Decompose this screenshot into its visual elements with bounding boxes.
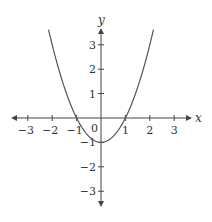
x-tick-label: 2 — [146, 124, 153, 137]
y-tick-label: −1 — [80, 136, 96, 149]
y-axis-label: y — [97, 13, 105, 27]
x-axis-right-arrow-icon — [186, 115, 192, 121]
coordinate-plane: −3−2−1123−3−2−1123 x y 0 — [0, 0, 212, 222]
axes — [11, 28, 192, 207]
y-tick-label: 3 — [89, 39, 96, 52]
y-axis-down-arrow-icon — [98, 201, 104, 207]
x-tick-label: −2 — [42, 124, 58, 137]
y-tick-label: −2 — [80, 161, 96, 174]
y-axis-up-arrow-icon — [98, 28, 104, 34]
y-tick-label: 2 — [89, 63, 96, 76]
x-axis-left-arrow-icon — [11, 115, 17, 121]
origin-label: 0 — [91, 122, 98, 135]
x-axis-label: x — [195, 111, 202, 125]
y-tick-label: 1 — [89, 88, 96, 101]
x-tick-label: 3 — [171, 124, 178, 137]
x-tick-label: 1 — [122, 124, 129, 137]
x-tick-label: −3 — [18, 124, 34, 137]
y-tick-label: −3 — [80, 185, 96, 198]
